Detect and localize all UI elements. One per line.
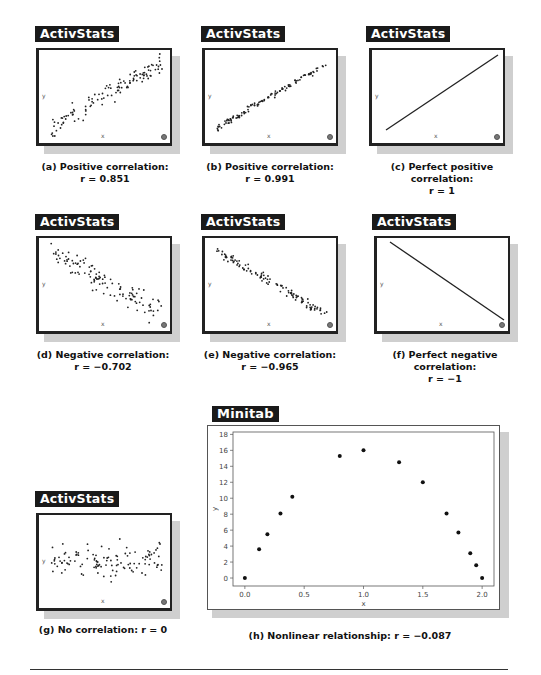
x-axis-label: x (267, 132, 271, 139)
scatter-plot-e: y x (202, 236, 338, 334)
x-axis-label: x (101, 320, 105, 327)
svg-text:0: 0 (224, 575, 228, 583)
x-axis-label: x (101, 597, 105, 604)
y-axis-label: y (42, 557, 46, 564)
caption-g: (g) No correlation: r = 0 (28, 624, 178, 636)
x-axis-label: x (439, 320, 443, 327)
x-axis-label: x (101, 132, 105, 139)
minitab-tag: Minitab (212, 406, 279, 422)
caption-a: (a) Positive correlation: r = 0.851 (30, 161, 180, 185)
activstats-tag: ActivStats (35, 491, 119, 507)
settings-icon[interactable] (161, 134, 167, 140)
caption-e: (e) Negative correlation: r = −0.965 (195, 349, 345, 373)
y-axis-label: y (208, 92, 212, 99)
caption-f: (f) Perfect negative correlation: r = −1 (360, 349, 530, 385)
scatter-plot-a: y x (36, 48, 172, 146)
svg-text:0.5: 0.5 (299, 591, 310, 599)
activstats-tag: ActivStats (35, 26, 119, 42)
svg-text:14: 14 (219, 463, 228, 471)
line-plot-c: y x (369, 48, 505, 146)
y-axis-label: y (375, 92, 379, 99)
settings-icon[interactable] (161, 599, 167, 605)
activstats-tag: ActivStats (35, 214, 119, 230)
settings-icon[interactable] (327, 134, 333, 140)
caption-h: (h) Nonlinear relationship: r = −0.087 (230, 630, 470, 642)
svg-text:0.0: 0.0 (239, 591, 250, 599)
scatter-plot-d: y x (36, 236, 172, 334)
x-axis-label: x (434, 132, 438, 139)
caption-d: (d) Negative correlation: r = −0.702 (28, 349, 178, 373)
svg-text:12: 12 (219, 479, 228, 487)
scatter-plot-b: y x (202, 48, 338, 146)
y-axis-label: y (380, 280, 384, 287)
y-axis-label: y (208, 280, 212, 287)
x-axis-label: x (267, 320, 271, 327)
svg-text:2.0: 2.0 (477, 591, 488, 599)
line-plot-f: y x (374, 236, 510, 334)
svg-text:4: 4 (224, 543, 229, 551)
activstats-tag: ActivStats (366, 26, 450, 42)
settings-icon[interactable] (161, 322, 167, 328)
svg-text:2: 2 (224, 559, 228, 567)
svg-text:6: 6 (224, 527, 229, 535)
svg-text:10: 10 (219, 495, 228, 503)
y-axis-label: y (42, 280, 46, 287)
svg-text:y: y (211, 507, 219, 511)
caption-b: (b) Positive correlation: r = 0.991 (195, 161, 345, 185)
minitab-plot: 0246810121416180.00.51.01.52.0xy (207, 425, 500, 610)
svg-text:1.0: 1.0 (358, 591, 369, 599)
activstats-tag: ActivStats (201, 26, 285, 42)
svg-text:18: 18 (219, 431, 228, 439)
svg-text:x: x (361, 600, 365, 608)
activstats-tag: ActivStats (372, 214, 456, 230)
svg-text:16: 16 (219, 447, 228, 455)
scatter-plot-g: y x (36, 513, 172, 611)
settings-icon[interactable] (327, 322, 333, 328)
caption-c: (c) Perfect positive correlation: r = 1 (358, 161, 526, 197)
settings-icon[interactable] (494, 134, 500, 140)
page-divider (30, 669, 508, 670)
settings-icon[interactable] (499, 322, 505, 328)
activstats-tag: ActivStats (201, 214, 285, 230)
svg-text:1.5: 1.5 (417, 591, 428, 599)
y-axis-label: y (42, 92, 46, 99)
svg-text:8: 8 (224, 511, 228, 519)
